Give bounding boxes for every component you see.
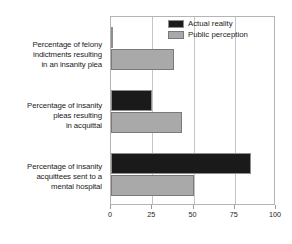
x-tick-label-100: 100: [269, 210, 281, 219]
x-tick-label-75: 75: [230, 210, 238, 219]
legend: Actual reality Public perception: [168, 19, 248, 39]
category-label-2: Percentage of insanity acquittees sent t…: [0, 162, 102, 193]
x-tick-label-25: 25: [147, 210, 155, 219]
bars-layer: [111, 17, 274, 204]
category-label-1-line-1: pleas resulting: [0, 111, 102, 121]
x-tick-label-50: 50: [189, 210, 197, 219]
category-label-2-line-2: mental hospital: [0, 182, 102, 192]
bar-actual-reality-0: [111, 27, 113, 48]
x-tick-label-0: 0: [108, 210, 112, 219]
category-label-0-line-0: Percentage of felony: [0, 40, 102, 50]
legend-label-public-perception: Public perception: [188, 30, 248, 39]
legend-label-actual-reality: Actual reality: [188, 19, 233, 28]
legend-swatch-public-perception: [168, 31, 184, 39]
category-label-2-line-1: acquittees sent to a: [0, 172, 102, 182]
x-tick-mark-0: [110, 205, 111, 209]
legend-item-public-perception[interactable]: Public perception: [168, 30, 248, 39]
plot-area: [110, 16, 275, 205]
legend-item-actual-reality[interactable]: Actual reality: [168, 19, 248, 28]
x-tick-mark-50: [193, 205, 194, 209]
bar-public-perception-0: [111, 49, 174, 70]
category-label-1-line-2: in acquittal: [0, 121, 102, 131]
category-label-2-line-0: Percentage of insanity: [0, 162, 102, 172]
x-tick-mark-100: [275, 205, 276, 209]
x-tick-mark-25: [151, 205, 152, 209]
category-label-0: Percentage of felony indictments resulti…: [0, 40, 102, 71]
bar-public-perception-2: [111, 175, 194, 196]
bar-public-perception-1: [111, 112, 182, 133]
category-label-1: Percentage of insanity pleas resulting i…: [0, 101, 102, 132]
category-label-0-line-1: indictments resulting: [0, 50, 102, 60]
category-label-1-line-0: Percentage of insanity: [0, 101, 102, 111]
bar-chart: Percentage of felony indictments resulti…: [0, 0, 292, 244]
category-label-0-line-2: in an insanity plea: [0, 60, 102, 70]
category-axis-labels: Percentage of felony indictments resulti…: [0, 16, 106, 205]
legend-swatch-actual-reality: [168, 20, 184, 28]
x-tick-mark-75: [234, 205, 235, 209]
bar-actual-reality-2: [111, 153, 251, 174]
bar-actual-reality-1: [111, 90, 152, 111]
